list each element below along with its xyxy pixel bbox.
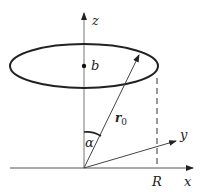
center-point-label: b <box>91 58 99 73</box>
x-axis-label: x <box>184 174 192 189</box>
z-axis-label: z <box>91 13 99 28</box>
radius-label-R: R <box>151 174 162 189</box>
position-vector-label: r0 <box>115 111 127 127</box>
y-axis-label: y <box>179 127 188 142</box>
ring-geometry-diagram: z b r0 α y R x <box>0 0 202 192</box>
y-axis <box>84 141 176 168</box>
center-point-b <box>82 64 86 68</box>
angle-alpha-label: α <box>85 135 94 150</box>
